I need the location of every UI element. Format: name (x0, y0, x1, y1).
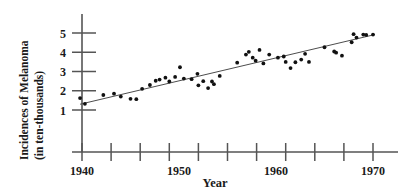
data-point (334, 51, 338, 55)
y-tick-label: 1 (60, 104, 66, 118)
data-point (267, 53, 271, 57)
data-point (119, 95, 123, 99)
data-point (140, 87, 144, 91)
data-point (294, 60, 298, 64)
y-axis-ticks (72, 33, 96, 110)
data-point (251, 56, 255, 60)
y-axis-tick-labels: 12345 (60, 27, 66, 118)
plot-area: 12345 1940195019601970 (0, 0, 412, 196)
data-point (178, 65, 182, 69)
axes (72, 14, 398, 152)
data-point (197, 83, 201, 87)
data-point (303, 52, 307, 56)
data-point (173, 75, 177, 79)
data-point (129, 97, 133, 101)
data-point (158, 78, 162, 82)
data-point (307, 60, 311, 64)
data-point (261, 62, 265, 66)
data-point (282, 55, 286, 59)
data-point (340, 54, 344, 58)
data-point (323, 45, 327, 49)
data-point (190, 77, 194, 81)
trend-line (80, 35, 375, 105)
data-point (134, 97, 138, 101)
data-point (206, 86, 210, 90)
data-point (299, 58, 303, 62)
regression-line (80, 35, 375, 105)
data-point (244, 53, 248, 57)
data-point (167, 80, 171, 84)
data-point (83, 102, 87, 106)
data-points (78, 32, 375, 105)
data-point (254, 59, 258, 63)
data-point (352, 32, 356, 36)
data-point (112, 92, 116, 96)
x-axis-label: Year (0, 176, 412, 191)
data-point (148, 83, 152, 87)
data-point (101, 93, 105, 97)
data-point (289, 66, 293, 70)
data-point (201, 79, 205, 83)
data-point (196, 72, 200, 76)
y-tick-label: 3 (60, 65, 66, 79)
data-point (212, 82, 216, 86)
data-point (350, 40, 354, 44)
y-tick-label: 2 (60, 84, 66, 98)
data-point (78, 96, 82, 100)
y-tick-label: 5 (60, 27, 66, 41)
melanoma-scatter-chart: Incidences of Melanoma (in ten-thousands… (0, 0, 412, 196)
data-point (218, 74, 222, 78)
data-point (164, 76, 168, 80)
data-point (258, 48, 262, 52)
data-point (247, 50, 251, 54)
y-tick-label: 4 (60, 46, 66, 60)
data-point (284, 60, 288, 64)
data-point (182, 77, 186, 81)
data-point (364, 33, 368, 37)
data-point (355, 36, 359, 40)
x-axis-label-text: Year (185, 176, 228, 190)
data-point (154, 79, 158, 83)
data-point (235, 61, 239, 65)
data-point (276, 56, 280, 60)
data-point (371, 33, 375, 37)
